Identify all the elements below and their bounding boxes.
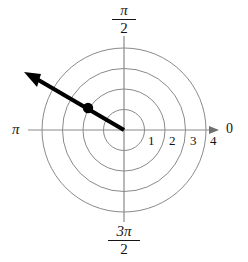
radial-tick-label-3: 3 [190, 134, 197, 147]
pi-over-2-denominator: 2 [112, 20, 136, 36]
radial-tick-label-4: 4 [210, 134, 217, 147]
angle-label-pi: π [12, 122, 20, 137]
pi-over-2-numerator: π [112, 3, 136, 18]
polar-ray [35, 78, 124, 130]
angle-label-pi-over-2: π 2 [112, 3, 136, 37]
three-pi-over-2-denominator: 2 [108, 241, 140, 257]
angle-label-zero: 0 [226, 122, 233, 136]
ray-arrowhead [24, 72, 41, 87]
radial-tick-label-1: 1 [148, 134, 155, 147]
three-pi-over-2-numerator: 3π [108, 224, 140, 239]
plotted-point-marker [83, 103, 93, 113]
angle-label-3pi-over-2: 3π 2 [108, 224, 140, 258]
radial-tick-label-2: 2 [169, 134, 176, 147]
